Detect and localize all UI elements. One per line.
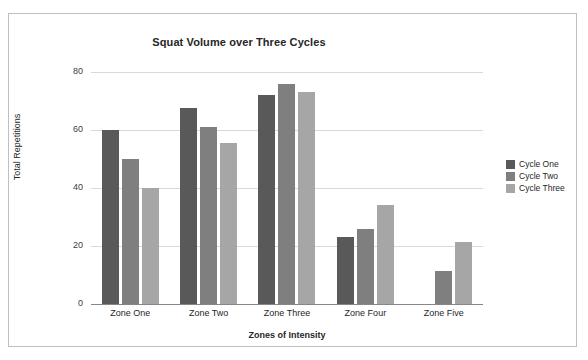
bar[interactable] xyxy=(337,237,354,304)
legend-swatch-icon xyxy=(506,184,515,193)
chart-legend: Cycle OneCycle TwoCycle Three xyxy=(506,159,565,195)
y-axis-tick-label: 20 xyxy=(53,240,83,250)
x-axis-tick-label: Zone Four xyxy=(326,308,404,318)
x-axis-tick-label: Zone One xyxy=(91,308,169,318)
bar[interactable] xyxy=(357,229,374,304)
bar-group xyxy=(91,72,169,304)
y-axis-title: Total Repetitions xyxy=(12,67,22,227)
legend-label: Cycle Two xyxy=(519,171,558,181)
bar[interactable] xyxy=(142,188,159,304)
y-axis-tick-label: 40 xyxy=(53,182,83,192)
bar[interactable] xyxy=(455,242,472,304)
bar[interactable] xyxy=(298,92,315,304)
bar[interactable] xyxy=(377,205,394,304)
chart-title: Squat Volume over Three Cycles xyxy=(9,36,469,48)
legend-swatch-icon xyxy=(506,172,515,181)
bar[interactable] xyxy=(122,159,139,304)
y-axis-tick-labels: 020406080 xyxy=(53,72,83,305)
bar-group xyxy=(326,72,404,304)
plot-area: Zone OneZone TwoZone ThreeZone FourZone … xyxy=(91,72,483,305)
legend-label: Cycle Three xyxy=(519,183,565,193)
x-axis-line xyxy=(91,304,483,305)
x-axis-title: Zones of Intensity xyxy=(91,330,483,340)
bar[interactable] xyxy=(278,84,295,304)
y-axis-tick-label: 60 xyxy=(53,124,83,134)
legend-label: Cycle One xyxy=(519,159,559,169)
bar-group xyxy=(248,72,326,304)
y-axis-tick-label: 0 xyxy=(53,298,83,308)
bar[interactable] xyxy=(102,130,119,304)
legend-item[interactable]: Cycle One xyxy=(506,159,565,169)
bar[interactable] xyxy=(180,108,197,304)
x-axis-tick-label: Zone Two xyxy=(169,308,247,318)
bar[interactable] xyxy=(258,95,275,304)
x-axis-tick-label: Zone Five xyxy=(405,308,483,318)
bar[interactable] xyxy=(220,143,237,304)
bar[interactable] xyxy=(435,271,452,304)
x-axis-tick-label: Zone Three xyxy=(248,308,326,318)
chart-frame: Squat Volume over Three Cycles Total Rep… xyxy=(8,13,577,347)
y-axis-tick-label: 80 xyxy=(53,66,83,76)
bar-group xyxy=(405,72,483,304)
bar[interactable] xyxy=(200,127,217,304)
bar-group xyxy=(169,72,247,304)
legend-swatch-icon xyxy=(506,160,515,169)
legend-item[interactable]: Cycle Two xyxy=(506,171,565,181)
legend-item[interactable]: Cycle Three xyxy=(506,183,565,193)
